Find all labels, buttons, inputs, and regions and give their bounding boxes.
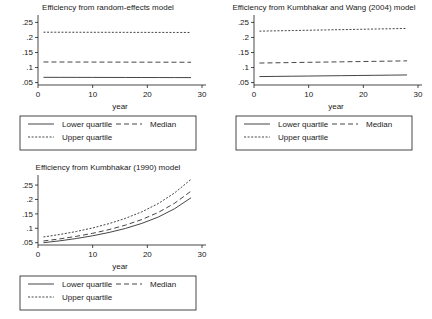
plot-area: .05.1.15.2.250102030year xyxy=(216,11,432,112)
legend-label: Upper quartile xyxy=(62,133,113,142)
chart-panel-kumbhakar-1990: Efficiency from Kumbhakar (1990) model .… xyxy=(0,160,216,319)
y-tick-label: .15 xyxy=(22,48,34,57)
x-tick-label: 10 xyxy=(88,250,97,259)
legend-label: Upper quartile xyxy=(278,133,329,142)
y-tick-label: .05 xyxy=(22,238,34,247)
x-tick-label: 30 xyxy=(198,90,207,99)
y-tick-label: .1 xyxy=(26,224,33,233)
y-tick-label: .25 xyxy=(22,181,34,190)
x-axis-title: year xyxy=(328,102,344,111)
y-tick-label: .15 xyxy=(238,48,250,57)
y-tick-label: .25 xyxy=(22,18,34,27)
x-tick-label: 30 xyxy=(198,250,207,259)
legend-box: Lower quartileMedianUpper quartile xyxy=(0,112,216,156)
legend-box: Lower quartileMedianUpper quartile xyxy=(0,272,216,316)
chart-panel-kumbhakar-wang-2004: Efficiency from Kumbhakar and Wang (2004… xyxy=(216,0,432,159)
y-tick-label: .05 xyxy=(22,78,34,87)
y-tick-label: .1 xyxy=(242,63,249,72)
series-line xyxy=(43,198,191,243)
y-tick-label: .2 xyxy=(242,33,249,42)
x-axis-title: year xyxy=(112,262,128,271)
chart-panel-random-effects: Efficiency from random-effects model .05… xyxy=(0,0,216,159)
legend-label: Median xyxy=(150,280,176,289)
legend-label: Lower quartile xyxy=(62,120,113,129)
series-line xyxy=(259,75,407,77)
series-line xyxy=(259,28,407,31)
legend-label: Lower quartile xyxy=(62,280,113,289)
x-tick-label: 10 xyxy=(88,90,97,99)
x-axis-title: year xyxy=(112,102,128,111)
legend-box: Lower quartileMedianUpper quartile xyxy=(216,112,432,156)
x-tick-label: 20 xyxy=(359,90,368,99)
y-tick-label: .2 xyxy=(26,33,33,42)
y-tick-label: .2 xyxy=(26,195,33,204)
y-tick-label: .1 xyxy=(26,63,33,72)
x-tick-label: 20 xyxy=(143,90,152,99)
series-line xyxy=(43,179,191,237)
legend-label: Upper quartile xyxy=(62,293,113,302)
series-line xyxy=(259,61,407,63)
y-tick-label: .25 xyxy=(238,18,250,27)
x-tick-label: 30 xyxy=(414,90,423,99)
x-tick-label: 0 xyxy=(36,250,41,259)
x-tick-label: 0 xyxy=(252,90,257,99)
y-tick-label: .15 xyxy=(22,210,34,219)
legend-label: Lower quartile xyxy=(278,120,329,129)
x-tick-label: 10 xyxy=(304,90,313,99)
x-tick-label: 0 xyxy=(36,90,41,99)
legend-label: Median xyxy=(150,120,176,129)
plot-area: .05.1.15.2.250102030year xyxy=(0,11,216,112)
x-tick-label: 20 xyxy=(143,250,152,259)
plot-area: .05.1.15.2.250102030year xyxy=(0,171,216,272)
legend-label: Median xyxy=(366,120,392,129)
y-tick-label: .05 xyxy=(238,78,250,87)
